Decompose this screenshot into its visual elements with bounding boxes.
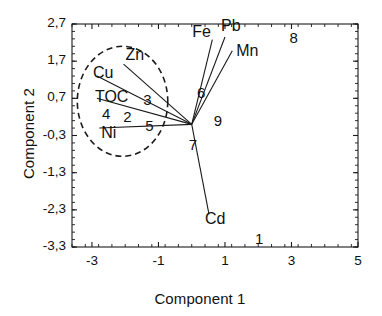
- score-label-9: 9: [214, 112, 222, 129]
- variable-label-mn: Mn: [236, 42, 258, 60]
- y-tick-label: 2,7: [22, 15, 66, 30]
- score-label-6: 6: [197, 84, 205, 101]
- score-label-5: 5: [145, 117, 153, 134]
- y-tick-label: -3,3: [22, 238, 66, 253]
- y-tick-label: 0,7: [22, 89, 66, 104]
- plot-canvas: [0, 0, 382, 316]
- y-tick-label: -2,3: [22, 201, 66, 216]
- score-label-2: 2: [123, 108, 131, 125]
- score-label-4: 4: [102, 105, 110, 122]
- variable-label-cu: Cu: [93, 64, 113, 82]
- score-label-3: 3: [143, 91, 151, 108]
- y-tick-label: -0,3: [22, 127, 66, 142]
- variable-label-pb: Pb: [221, 17, 241, 35]
- y-tick-label: -1,3: [22, 164, 66, 179]
- x-tick-label: -3: [77, 253, 107, 268]
- variable-label-cd: Cd: [205, 210, 225, 228]
- variable-label-ni: Ni: [101, 124, 116, 142]
- score-label-1: 1: [255, 230, 263, 247]
- y-tick-label: 1,7: [22, 52, 66, 67]
- x-tick-label: 5: [343, 253, 373, 268]
- variable-label-fe: Fe: [192, 23, 211, 41]
- x-axis-title: Component 1: [120, 290, 280, 307]
- variable-label-toc: TOC: [95, 88, 128, 106]
- loading-vector-fe: [192, 40, 213, 125]
- x-tick-label: -1: [143, 253, 173, 268]
- score-label-8: 8: [289, 29, 297, 46]
- x-tick-label: 3: [276, 253, 306, 268]
- x-tick-label: 1: [210, 253, 240, 268]
- score-label-7: 7: [189, 136, 197, 153]
- pca-biplot-figure: Component 2 Component 1 2,71,70,7-0,3-1,…: [0, 0, 382, 316]
- loading-vectors: [97, 37, 232, 214]
- variable-label-zn: Zn: [126, 46, 145, 64]
